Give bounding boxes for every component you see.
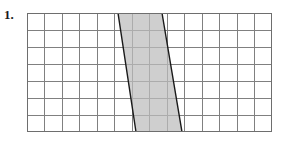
problem-number-label: 1. <box>4 8 14 22</box>
worksheet-page: 1. <box>0 0 284 144</box>
grid-figure-container <box>27 13 272 132</box>
parallelogram-grid-svg <box>27 13 272 132</box>
